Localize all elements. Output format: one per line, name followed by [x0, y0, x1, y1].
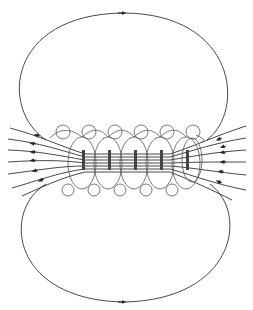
top-field-loop: [19, 13, 227, 140]
left-field-lines: [8, 128, 85, 196]
diagram-canvas: [0, 0, 253, 310]
solenoid-field-diagram: [0, 0, 253, 310]
coil-turn-5: [160, 125, 200, 196]
right-field-lines: [170, 126, 246, 200]
bottom-field-loop: [21, 184, 230, 302]
interior-field-lines: [85, 154, 170, 172]
solenoid-coil: [50, 125, 204, 196]
